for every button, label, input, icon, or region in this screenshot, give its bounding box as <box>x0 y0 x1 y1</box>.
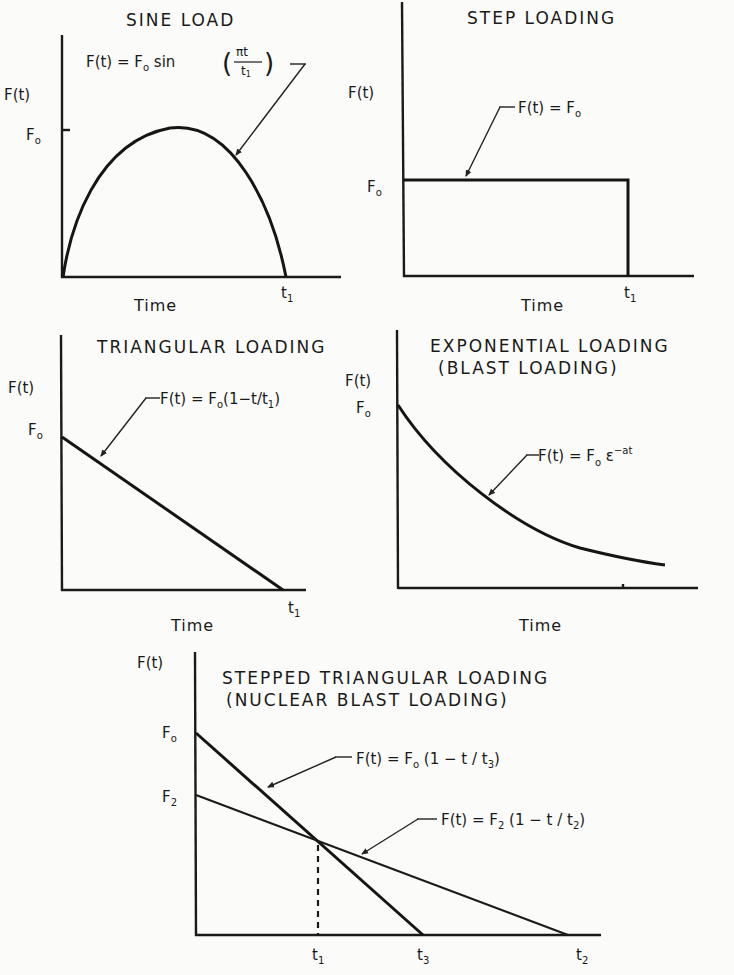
panel-exponential-loading: EXPONENTIAL LOADING (BLAST LOADING) F(t)… <box>345 330 698 635</box>
exponential-curve <box>398 405 665 565</box>
stepped-equation-f0: F(t) = Fo (1 − t / t3) <box>356 750 500 770</box>
svg-text:t1: t1 <box>241 64 251 79</box>
triangular-y-axis <box>61 335 62 591</box>
panel-sine-load: SINE LOAD F(t) Fo Time t1 F(t) = Fo sin … <box>4 10 341 315</box>
stepped-equation-f2: F(t) = F2 (1 − t / t2) <box>441 811 585 831</box>
step-t1-label: t1 <box>624 284 636 304</box>
step-curve <box>404 180 628 276</box>
stepped-t3-label: t3 <box>417 946 429 966</box>
step-leader-arrow <box>466 107 500 176</box>
step-x-label: Time <box>520 296 564 315</box>
step-title: STEP LOADING <box>467 8 616 28</box>
sine-t1-label: t1 <box>281 284 293 304</box>
panel-triangular-loading: TRIANGULAR LOADING F(t) = Fo(1−t/t1) F(t… <box>8 335 326 635</box>
svg-text:F(t) = Fo sin: F(t) = Fo sin <box>86 53 175 73</box>
sine-x-label: Time <box>133 296 177 315</box>
stepped-f2-label: F2 <box>162 788 177 808</box>
triangular-t1-label: t1 <box>288 599 300 619</box>
stepped-t1-label: t1 <box>312 946 324 966</box>
stepped-title: STEPPED TRIANGULAR LOADING <box>222 668 549 688</box>
triangular-f0-label: Fo <box>28 421 43 441</box>
triangular-x-label: Time <box>170 616 214 635</box>
triangular-curve <box>62 437 283 590</box>
triangular-leader-arrow <box>101 398 146 456</box>
sine-y-label: F(t) <box>4 86 30 104</box>
svg-text:): ) <box>264 48 274 78</box>
loading-functions-diagram: SINE LOAD F(t) Fo Time t1 F(t) = Fo sin … <box>0 0 734 975</box>
svg-text:πt: πt <box>236 45 248 59</box>
panel-step-loading: STEP LOADING F(t) = Fo F(t) Fo Time t1 <box>348 2 694 315</box>
exponential-title: EXPONENTIAL LOADING <box>430 336 670 356</box>
step-f0-label: Fo <box>367 178 382 198</box>
exponential-leader-arrow <box>489 455 527 495</box>
svg-text:(: ( <box>222 48 232 78</box>
triangular-equation: F(t) = Fo(1−t/t1) <box>160 390 280 410</box>
exponential-y-axis <box>397 330 398 589</box>
stepped-f0-label: Fo <box>162 724 177 744</box>
stepped-y-axis <box>195 652 196 936</box>
panel-stepped-triangular-loading: STEPPED TRIANGULAR LOADING (NUCLEAR BLAS… <box>137 652 601 966</box>
step-y-axis <box>402 2 404 277</box>
stepped-leader-arrow-f0 <box>268 757 336 787</box>
exponential-subtitle: (BLAST LOADING) <box>438 358 619 378</box>
sine-f0-label: Fo <box>26 126 41 146</box>
triangular-title: TRIANGULAR LOADING <box>96 337 326 357</box>
step-y-label: F(t) <box>348 84 374 102</box>
sine-equation: F(t) = Fo sin ( πt t1 ) <box>86 45 274 79</box>
exponential-y-label: F(t) <box>345 372 371 390</box>
stepped-y-label: F(t) <box>137 654 163 672</box>
stepped-leader-arrow-f2 <box>362 819 418 854</box>
sine-curve <box>63 127 286 277</box>
triangular-y-label: F(t) <box>8 379 34 397</box>
sine-title: SINE LOAD <box>126 10 235 30</box>
stepped-t2-label: t2 <box>576 946 588 966</box>
step-equation: F(t) = Fo <box>518 99 581 119</box>
exponential-equation: F(t) = Fo ε−at <box>538 445 632 468</box>
exponential-f0-label: Fo <box>356 399 371 419</box>
exponential-x-label: Time <box>518 616 562 635</box>
stepped-subtitle: (NUCLEAR BLAST LOADING) <box>226 690 509 710</box>
